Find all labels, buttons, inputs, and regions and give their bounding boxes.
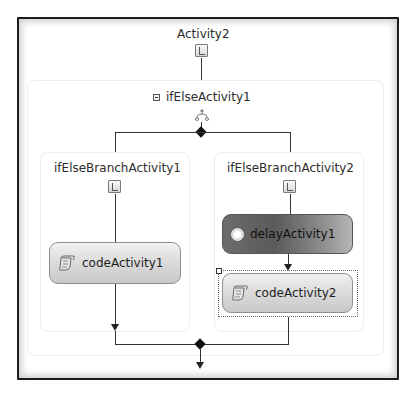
connector-line xyxy=(115,331,116,344)
ifelse-branch-icon xyxy=(194,108,210,122)
collapse-minus-icon[interactable] xyxy=(153,94,160,101)
branch-condition-icon xyxy=(283,180,296,193)
activity-label: codeActivity2 xyxy=(255,286,336,300)
connector-line xyxy=(290,132,291,152)
ifelse-activity-title: ifElseActivity1 xyxy=(166,90,251,104)
connector-line xyxy=(201,58,202,80)
connector-line xyxy=(115,284,116,326)
connector-line xyxy=(115,132,116,152)
stopwatch-icon xyxy=(231,228,244,241)
delay-activity-1[interactable]: delayActivity1 xyxy=(222,214,353,254)
ifelse-activity-header[interactable]: ifElseActivity1 xyxy=(153,90,251,104)
code-icon xyxy=(231,285,249,301)
resize-handle[interactable] xyxy=(216,268,222,274)
arrow-down-icon xyxy=(196,362,204,369)
code-activity-2[interactable]: codeActivity2 xyxy=(222,273,353,313)
arrow-down-icon xyxy=(111,324,119,331)
split-connector xyxy=(115,132,290,133)
activity-label: codeActivity1 xyxy=(82,256,163,270)
code-activity-1[interactable]: codeActivity1 xyxy=(49,242,181,284)
connector-line xyxy=(290,194,291,214)
branch-1-title: ifElseBranchActivity1 xyxy=(54,161,181,175)
code-icon xyxy=(58,255,76,271)
branch-2-title: ifElseBranchActivity2 xyxy=(227,161,354,175)
sequential-workflow-icon xyxy=(195,44,208,57)
branch-condition-icon xyxy=(108,180,121,193)
activity-label: delayActivity1 xyxy=(250,227,335,241)
connector-line xyxy=(288,317,289,344)
root-activity-title: Activity2 xyxy=(177,27,230,41)
connector-line xyxy=(115,194,116,242)
